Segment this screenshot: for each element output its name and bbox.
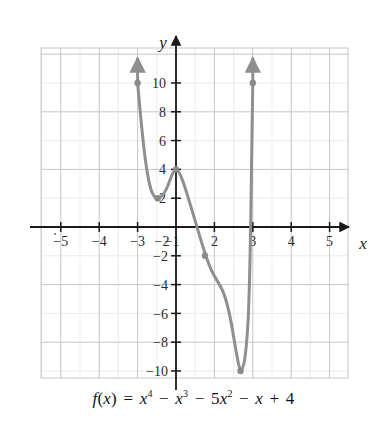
- equation-plus: +: [268, 389, 282, 408]
- equation-term1-exponent: 4: [147, 388, 152, 399]
- equation-equals: =: [121, 389, 135, 408]
- y-tick-label--2: −2: [153, 249, 168, 264]
- equation-term5-constant: 4: [286, 389, 295, 408]
- equation-paren-close: ): [111, 389, 117, 408]
- y-tick-label-4: 4: [159, 162, 166, 177]
- point-0-4: [173, 166, 179, 172]
- scan-artifact-dot: [54, 233, 56, 235]
- x-tick-label-4: 4: [288, 234, 295, 249]
- equation-term3-exponent: 2: [227, 388, 232, 399]
- equation-term3-coefficient: 5: [211, 389, 220, 408]
- y-tick-label-6: 6: [159, 134, 166, 149]
- equation-minus-1: −: [157, 389, 171, 408]
- y-axis-name-label: y: [157, 33, 167, 52]
- y-tick-label--6: −6: [153, 307, 168, 322]
- function-graph-figure: −5 −4 −3 −2 −1 2 3 4 5 10 8 6 4 2 −2 −4 …: [0, 0, 387, 433]
- y-tick-label-10: 10: [152, 76, 166, 91]
- equation-minus-3: −: [237, 389, 251, 408]
- function-equation-caption: f(x) = x4 − x3 − 5x2 − x + 4: [0, 388, 387, 409]
- y-tick-label--10: −10: [146, 364, 168, 379]
- coordinate-plane: −5 −4 −3 −2 −1 2 3 4 5 10 8 6 4 2 −2 −4 …: [0, 0, 387, 433]
- point-3-10: [250, 80, 256, 86]
- equation-var: x: [103, 389, 111, 408]
- point-2--10: [237, 368, 243, 374]
- equation-term2-exponent: 3: [183, 388, 188, 399]
- equation-minus-2: −: [193, 389, 207, 408]
- point-1--2: [202, 253, 208, 259]
- x-tick-label--1: −1: [165, 234, 180, 249]
- equation-term2-base: x: [175, 389, 183, 408]
- y-tick-label--4: −4: [153, 278, 168, 293]
- x-tick-label--5: −5: [53, 234, 68, 249]
- x-axis-name-label: x: [358, 234, 367, 253]
- point--2-10: [134, 80, 140, 86]
- x-tick-label-2: 2: [211, 234, 218, 249]
- x-tick-label--4: −4: [92, 234, 107, 249]
- y-tick-label--8: −8: [153, 335, 168, 350]
- x-tick-label-5: 5: [326, 234, 333, 249]
- y-tick-label-8: 8: [159, 105, 166, 120]
- equation-term4-base: x: [255, 389, 263, 408]
- x-tick-label--3: −3: [130, 234, 145, 249]
- point--1.5-2: [154, 195, 160, 201]
